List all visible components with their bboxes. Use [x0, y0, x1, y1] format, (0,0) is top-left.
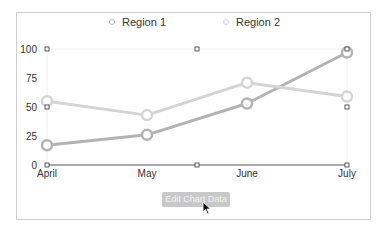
data-point[interactable]	[242, 99, 252, 109]
x-tick-label: April	[37, 168, 57, 179]
y-tick-label: 50	[26, 102, 38, 113]
y-tick-label: 100	[20, 44, 37, 55]
mouse-cursor-icon	[202, 201, 212, 215]
data-point[interactable]	[242, 78, 252, 88]
legend-marker-icon	[110, 20, 115, 25]
legend-label: Region 1	[122, 16, 166, 28]
edit-chart-data-button[interactable]: Edit Chart Data	[162, 192, 230, 207]
resize-handle[interactable]	[45, 47, 49, 51]
data-point[interactable]	[342, 92, 352, 102]
legend-marker-icon	[224, 20, 229, 25]
resize-handle[interactable]	[345, 47, 349, 51]
series-line-2	[47, 83, 347, 115]
legend-label: Region 2	[236, 16, 280, 28]
y-tick-label: 25	[26, 131, 38, 142]
resize-handle[interactable]	[345, 105, 349, 109]
resize-handle[interactable]	[45, 163, 49, 167]
data-point[interactable]	[142, 110, 152, 120]
x-tick-label: May	[138, 168, 157, 179]
data-point[interactable]	[142, 130, 152, 140]
resize-handle[interactable]	[195, 163, 199, 167]
x-tick-label: June	[236, 168, 258, 179]
y-tick-label: 75	[26, 73, 38, 84]
data-point[interactable]	[42, 140, 52, 150]
x-tick-label: July	[338, 168, 356, 179]
resize-handle[interactable]	[45, 105, 49, 109]
resize-handle[interactable]	[195, 47, 199, 51]
resize-handle[interactable]	[345, 163, 349, 167]
